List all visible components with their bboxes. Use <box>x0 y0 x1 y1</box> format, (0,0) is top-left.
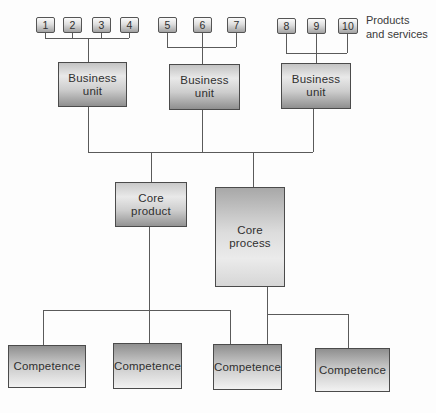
annotation-line2: and services <box>366 28 428 42</box>
product-box-8: 8 <box>277 18 296 34</box>
business-unit-label: unit <box>83 85 102 98</box>
competence-box-1: Competence <box>8 345 86 388</box>
business-unit-label: Business <box>68 72 116 85</box>
connector-line <box>316 34 317 53</box>
business-unit-label: unit <box>195 87 214 100</box>
product-box-label: 4 <box>126 19 132 32</box>
connector-line <box>267 314 348 315</box>
business-unit-label: Business <box>292 73 340 86</box>
connector-line <box>88 152 313 153</box>
connector-line <box>45 38 129 39</box>
connector-line <box>202 47 203 64</box>
business-unit-box-3: Business unit <box>281 63 351 109</box>
product-box-label: 2 <box>69 19 75 32</box>
connector-line <box>167 33 168 47</box>
competence-label: Competence <box>319 364 386 377</box>
business-unit-box-1: Business unit <box>58 62 127 107</box>
connector-line <box>313 109 314 152</box>
product-box-2: 2 <box>63 17 82 33</box>
core-competence-diagram: 1 2 3 4 5 6 7 8 9 10 Products and servic… <box>0 0 436 413</box>
products-and-services-label: Products and services <box>366 14 428 41</box>
competence-label: Competence <box>114 360 181 373</box>
connector-line <box>253 152 254 187</box>
connector-line <box>88 107 89 152</box>
product-box-label: 3 <box>98 19 104 32</box>
product-box-10: 10 <box>338 18 358 34</box>
connector-line <box>236 33 237 47</box>
competence-label: Competence <box>13 360 80 373</box>
product-box-label: 9 <box>313 20 319 33</box>
connector-line <box>316 53 317 63</box>
core-product-box: Core product <box>115 182 187 227</box>
core-product-label: product <box>131 205 171 218</box>
business-unit-label: unit <box>306 86 325 99</box>
product-box-4: 4 <box>120 17 139 33</box>
connector-line <box>43 310 230 311</box>
product-box-label: 7 <box>233 19 239 32</box>
core-process-label: Core <box>237 224 263 237</box>
product-box-label: 1 <box>42 19 48 32</box>
product-box-3: 3 <box>92 17 111 33</box>
connector-line <box>286 34 287 53</box>
connector-line <box>347 34 348 53</box>
business-unit-box-2: Business unit <box>169 64 240 110</box>
core-process-label: process <box>229 237 271 250</box>
core-product-label: Core <box>138 192 164 205</box>
connector-line <box>129 33 130 38</box>
connector-line <box>230 310 231 344</box>
connector-line <box>43 310 44 345</box>
competence-label: Competence <box>214 361 281 374</box>
competence-box-4: Competence <box>315 348 390 392</box>
product-box-label: 6 <box>199 19 205 32</box>
business-unit-label: Business <box>180 74 228 87</box>
annotation-line1: Products <box>366 14 428 28</box>
product-box-6: 6 <box>193 17 212 33</box>
connector-line <box>202 110 203 152</box>
product-box-5: 5 <box>158 17 177 33</box>
product-box-label: 5 <box>164 19 170 32</box>
product-box-7: 7 <box>227 17 246 33</box>
product-box-label: 10 <box>342 20 354 33</box>
product-box-9: 9 <box>307 18 326 34</box>
product-box-label: 8 <box>283 20 289 33</box>
connector-line <box>348 314 349 348</box>
competence-box-3: Competence <box>213 344 282 390</box>
connector-line <box>202 33 203 47</box>
product-box-1: 1 <box>36 17 55 33</box>
core-process-box: Core process <box>215 187 285 287</box>
connector-line <box>88 38 89 62</box>
competence-box-2: Competence <box>113 343 182 389</box>
connector-line <box>267 287 268 344</box>
connector-line <box>149 227 150 343</box>
connector-line <box>151 152 152 182</box>
